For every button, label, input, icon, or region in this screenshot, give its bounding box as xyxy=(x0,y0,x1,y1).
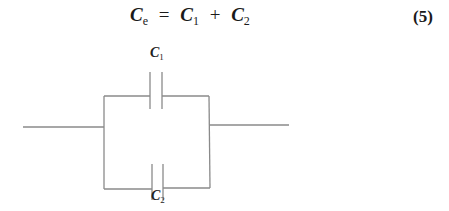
c1-label-symbol: C xyxy=(150,45,159,60)
c2-label: C2 xyxy=(151,188,165,205)
right-node-wire xyxy=(209,96,210,188)
c1-label-subscript: 1 xyxy=(159,52,164,62)
circuit-diagram xyxy=(0,0,449,211)
c2-label-symbol: C xyxy=(151,188,160,203)
c2-label-subscript: 2 xyxy=(160,195,165,205)
c1-label: C1 xyxy=(150,45,164,62)
